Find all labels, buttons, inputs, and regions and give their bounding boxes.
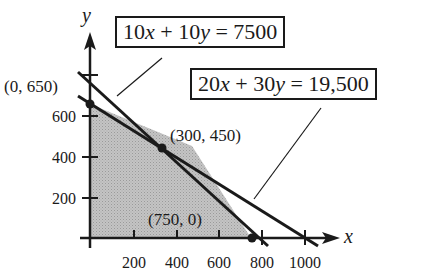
y-axis-label: y	[80, 4, 91, 27]
leader-line-2	[254, 108, 321, 199]
y-tick-label-200: 200	[52, 190, 76, 207]
equation-box-1: 10x + 10y = 7500	[115, 16, 285, 48]
vertex-label-750-0: (750, 0)	[148, 210, 202, 229]
x-axis-label: x	[343, 225, 353, 247]
vertex-label-0-650: (0, 650)	[4, 77, 58, 96]
y-tick-label-600: 600	[52, 108, 76, 125]
x-tick-label-1000: 1000	[289, 254, 321, 271]
y-tick-label-400: 400	[52, 149, 76, 166]
vertex-dot-300-450	[158, 144, 167, 153]
vertex-dot-750-0	[248, 234, 257, 243]
x-tick-label-800: 800	[250, 254, 274, 271]
vertex-label-300-450: (300, 450)	[170, 126, 241, 145]
vertex-dot-0-650	[86, 100, 95, 109]
equation-box-2: 20x + 30y = 19,500	[190, 68, 377, 100]
leader-line-1	[117, 58, 162, 96]
x-tick-label-600: 600	[207, 254, 231, 271]
x-tick-label-400: 400	[165, 254, 189, 271]
x-tick-label-200: 200	[122, 254, 146, 271]
